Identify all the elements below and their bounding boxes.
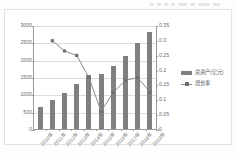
- y-axis-right-tick: [156, 71, 158, 72]
- y-axis-right-tick-label: 0.35: [159, 23, 169, 28]
- x-axis-tick: [71, 129, 72, 131]
- x-axis-tick: [108, 129, 109, 131]
- growth-rate-line-series: [34, 26, 156, 129]
- line-marker-swatch-icon: [181, 82, 192, 87]
- y-axis-left-tick-label: 3000: [20, 23, 32, 28]
- x-axis-tick: [84, 129, 85, 131]
- x-axis-tick: [59, 129, 60, 131]
- y-axis-right-tick: [156, 85, 158, 86]
- x-axis-tick: [96, 129, 97, 131]
- truncated-header-artifacts: [150, 1, 236, 7]
- y-axis-right-tick: [156, 56, 158, 57]
- y-axis-right-tick-label: 0.25: [159, 53, 169, 58]
- x-axis-label: 2016年: [114, 132, 129, 147]
- x-axis-tick: [121, 129, 122, 131]
- line-marker: [124, 79, 127, 82]
- y-axis-left-tick-label: 2000: [20, 58, 32, 63]
- legend-label: 增长率: [195, 81, 210, 86]
- x-axis-tick: [133, 129, 134, 131]
- y-axis-left-tick-label: 1000: [20, 93, 32, 98]
- y-axis-right-tick-label: 0.1: [159, 98, 166, 103]
- line-marker: [148, 91, 151, 94]
- line-marker: [51, 39, 54, 42]
- line-marker: [75, 54, 78, 57]
- x-axis-tick: [46, 129, 47, 131]
- y-axis-left-tick-label: 500: [23, 110, 32, 115]
- y-axis-left-tick-label: 2500: [20, 41, 32, 46]
- legend-item-growth-rate: 增长率: [181, 81, 237, 86]
- y-axis-right-tick-label: 0.05: [159, 113, 169, 118]
- y-axis-right-tick: [156, 100, 158, 101]
- y-axis-right-tick-label: 0.15: [159, 83, 169, 88]
- legend-label: 总资产(亿元): [195, 70, 224, 75]
- y-axis-right-tick: [156, 26, 158, 27]
- y-axis-left-tick-label: 1500: [20, 75, 32, 80]
- y-axis-right-tick-label: 0.2: [159, 68, 166, 73]
- chart-frame: 050010001500200025003000 00.050.10.150.2…: [4, 9, 232, 145]
- x-axis-tick: [34, 129, 35, 131]
- line-marker: [100, 110, 103, 113]
- y-axis-right-tick: [156, 115, 158, 116]
- legend-item-total-assets: 总资产(亿元): [181, 70, 237, 75]
- plot-area: 050010001500200025003000 00.050.10.150.2…: [33, 26, 157, 130]
- line-marker: [87, 76, 90, 79]
- line-marker: [63, 49, 66, 52]
- chart-screenshot: 050010001500200025003000 00.050.10.150.2…: [0, 0, 237, 155]
- x-axis-label: 2019年: [151, 132, 166, 147]
- y-axis-right-tick: [156, 41, 158, 42]
- line-marker: [112, 91, 115, 94]
- y-axis-right-tick-label: 0.3: [159, 38, 166, 43]
- x-axis-labels: 2010年2011年2012年2013年2014年2015年2016年2017年…: [33, 132, 157, 155]
- growth-rate-line: [52, 41, 150, 112]
- bar-swatch-icon: [181, 71, 192, 75]
- x-axis-tick: [146, 129, 147, 131]
- x-axis-label: 2010年: [40, 132, 55, 147]
- x-axis-tick: [158, 129, 159, 131]
- legend: 总资产(亿元) 增长率: [181, 70, 237, 93]
- line-marker: [136, 76, 139, 79]
